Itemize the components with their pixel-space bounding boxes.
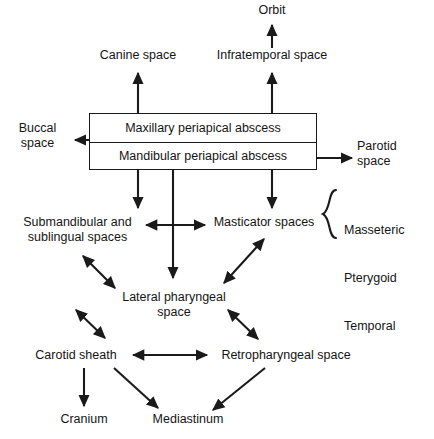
node-submandibular-sublingual-spaces: Submandibular and sublingual spaces xyxy=(10,215,145,245)
edge-retropharyngeal-to-mediastinum xyxy=(213,368,265,410)
node-mediastinum: Mediastinum xyxy=(137,412,239,427)
node-buccal-space: Buccal space xyxy=(5,121,70,151)
node-lateral-pharyngeal-space: Lateral pharyngeal space xyxy=(104,290,244,320)
node-cranium: Cranium xyxy=(46,412,122,427)
edge-carotid-to-mediastinum xyxy=(114,368,158,408)
node-mandibular-periapical-abscess: Mandibular periapical abscess xyxy=(90,142,316,171)
masticator-subtypes-brace xyxy=(323,190,336,238)
node-maxillary-periapical-abscess: Maxillary periapical abscess xyxy=(90,114,316,142)
node-masticator-spaces: Masticator spaces xyxy=(208,215,320,230)
odontogenic-infection-spread-diagram: Orbit Canine space Infratemporal space B… xyxy=(0,0,434,439)
node-infratemporal-space: Infratemporal space xyxy=(205,48,339,63)
node-canine-space: Canine space xyxy=(88,48,188,63)
edge-lateral-pharyngeal-carotid xyxy=(76,310,105,338)
masticator-subtype-masseteric: Masseteric xyxy=(344,222,404,238)
edge-masticator-lateral-pharyngeal xyxy=(224,239,264,283)
edge-submandibular-lateral-pharyngeal xyxy=(83,256,115,288)
node-carotid-sheath: Carotid sheath xyxy=(22,348,130,363)
masticator-subtype-pterygoid: Pterygoid xyxy=(344,270,404,286)
node-parotid-space: Parotid space xyxy=(357,139,429,169)
node-orbit: Orbit xyxy=(238,3,306,18)
masticator-subtype-temporal: Temporal xyxy=(344,318,404,334)
periapical-abscess-box: Maxillary periapical abscess Mandibular … xyxy=(89,113,317,170)
node-retropharyngeal-space: Retropharyngeal space xyxy=(211,348,361,363)
masticator-subtypes-list: Masseteric Pterygoid Temporal xyxy=(344,190,404,366)
